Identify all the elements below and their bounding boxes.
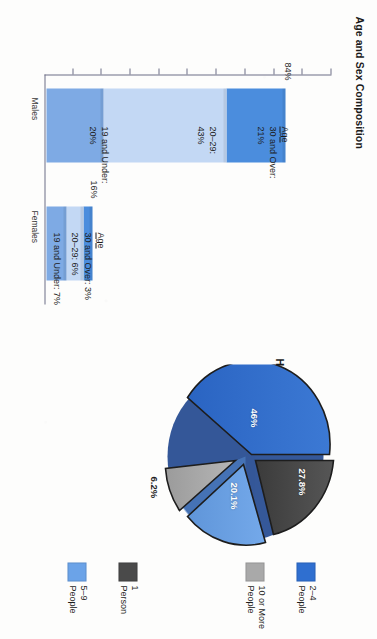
legend-swatch-2-4-people (296, 562, 315, 581)
pie-slice-label-6-2: 6.2% (148, 476, 159, 498)
annotation-females-30-and-over-text: 30 and Over: 3% (82, 232, 92, 300)
legend-label-1-person: 1 Person (117, 585, 139, 614)
bar-column-males[interactable] (46, 88, 285, 162)
y-axis-tick-90 (301, 68, 302, 74)
pie-svg (155, 364, 351, 560)
legend-swatch-10-or-more-people (245, 562, 264, 581)
x-axis-baseline (44, 74, 45, 304)
annotation-females-20-29-text: 20–29: 6% (69, 232, 79, 275)
y-axis-tick-10 (72, 68, 73, 74)
annotation-females-age: Age (94, 232, 106, 248)
y-axis-tick-20 (100, 68, 101, 74)
annotation-females-20-29: 20–29: 6% (68, 232, 80, 275)
annotation-males-30-and-over: 30 and Over: 21% (254, 126, 277, 178)
segment-highlight (282, 88, 285, 162)
annotation-males-20-29-line2: 43% (194, 126, 206, 154)
scanned-page: Age and Sex Composition 1009080706050403… (0, 0, 377, 639)
legend-label-2-4-people: 2–4 People (295, 585, 317, 613)
y-axis-tick-80 (273, 68, 274, 74)
annotation-males-19-and-under: 19 and Under: 20% (86, 126, 109, 183)
pie-slice-label-27-8: 27.8% (296, 468, 307, 495)
y-axis-tick-40 (158, 68, 159, 74)
annotation-males-30-and-over-line1: 30 and Over: (266, 126, 278, 178)
y-axis-tick-100 (330, 68, 331, 74)
category-label-males: Males (29, 97, 39, 120)
annotation-males-19-and-under-line1: 19 and Under: (98, 126, 110, 183)
household-size-chart: Household Size (0, 330, 377, 639)
legend-label-10-or-more-people-line2: People (244, 585, 255, 629)
category-label-females: Females (29, 210, 39, 243)
pie-stage: 46% 27.8% 20.1% 6.2% (155, 364, 351, 560)
y-axis-tick-70 (244, 68, 245, 74)
segment-highlight (63, 206, 66, 280)
segment-highlight (223, 88, 226, 162)
legend-label-2-4-people-line2: People (295, 585, 306, 613)
annotation-females-30-and-over: 30 and Over: 3% (81, 232, 93, 300)
y-axis-tick-30 (129, 68, 130, 74)
annotation-males-20-29-line1: 20–29: (206, 126, 218, 154)
annotation-males-age: Age (278, 126, 290, 142)
legend-label-10-or-more-people: 10 or More People (244, 585, 266, 629)
pie-slice-label-20-1: 20.1% (228, 482, 239, 509)
annotation-males-age-text: Age (279, 126, 289, 142)
legend-swatch-1-person (118, 562, 137, 581)
bar-chart-title: Age and Sex Composition (353, 16, 365, 148)
legend-label-5-9-people: 5–9 People (66, 585, 88, 613)
age-and-sex-composition-chart: Age and Sex Composition 1009080706050403… (0, 0, 377, 330)
annotation-males-20-29: 20–29: 43% (194, 126, 217, 154)
y-axis-tick-50 (187, 68, 188, 74)
y-axis-tick-60 (215, 68, 216, 74)
legend-label-2-4-people-line1: 2–4 (306, 585, 317, 613)
annotation-males-19-and-under-line2: 20% (86, 126, 98, 183)
pie-legend: 1 Person 5–9 People 2–4 People (33, 562, 333, 636)
annotation-females-age-text: Age (95, 232, 105, 248)
legend-label-5-9-people-line2: People (66, 585, 77, 613)
total-label-males: 84% (282, 62, 292, 80)
annotation-females-19-and-under: 19 and Under: 7% (50, 232, 62, 305)
legend-label-1-person-line2: Person (117, 585, 128, 614)
legend-swatch-5-9-people (67, 562, 86, 581)
legend-label-10-or-more-people-line1: 10 or More (255, 585, 266, 629)
legend-label-1-person-line1: 1 (128, 585, 139, 614)
annotation-males-30-and-over-line2: 21% (254, 126, 266, 178)
annotation-females-19-and-under-text: 19 and Under: 7% (51, 232, 61, 305)
pie-slice-label-46: 46% (248, 408, 259, 427)
legend-label-5-9-people-line1: 5–9 (77, 585, 88, 613)
